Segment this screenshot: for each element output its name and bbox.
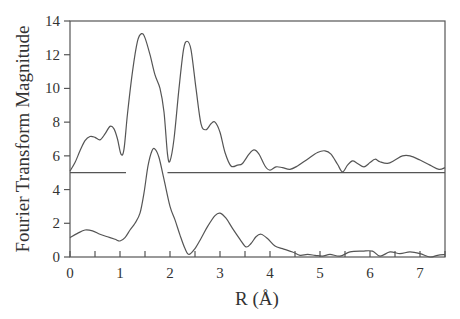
- y-tick-label: 8: [53, 114, 61, 130]
- spectrum-curves: [70, 34, 445, 258]
- upper-spectrum-curve: [70, 34, 445, 172]
- y-tick-label: 14: [45, 13, 61, 29]
- ft-magnitude-chart: 02468101214 01234567 R (Å) Fourier Trans…: [0, 0, 460, 319]
- x-tick-label: 4: [266, 265, 274, 281]
- x-tick-label: 7: [416, 265, 424, 281]
- y-tick-label: 10: [45, 80, 60, 96]
- lower-spectrum-curve: [70, 148, 445, 257]
- y-axis-ticks: 02468101214: [45, 13, 70, 265]
- y-tick-label: 4: [53, 182, 61, 198]
- y-tick-label: 0: [53, 249, 61, 265]
- plot-frame: [70, 21, 445, 257]
- x-axis-ticks: 01234567: [66, 251, 445, 281]
- y-tick-label: 2: [53, 215, 61, 231]
- x-axis-title: R (Å): [235, 288, 279, 310]
- x-tick-label: 2: [166, 265, 174, 281]
- x-tick-label: 5: [316, 265, 324, 281]
- y-tick-label: 12: [45, 47, 60, 63]
- y-tick-label: 6: [53, 148, 61, 164]
- x-tick-label: 6: [366, 265, 374, 281]
- x-tick-label: 1: [116, 265, 124, 281]
- y-axis-title: Fourier Transform Magnitude: [12, 26, 33, 253]
- x-tick-label: 3: [216, 265, 224, 281]
- x-tick-label: 0: [66, 265, 74, 281]
